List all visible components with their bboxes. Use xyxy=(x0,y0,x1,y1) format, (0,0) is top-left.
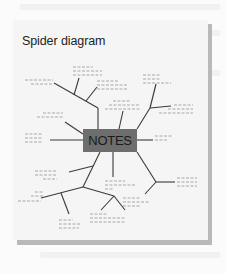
spider-diagram-card: Spider diagram xyxy=(13,20,208,240)
center-notes-box: NOTES xyxy=(83,129,137,152)
